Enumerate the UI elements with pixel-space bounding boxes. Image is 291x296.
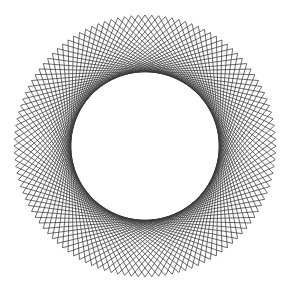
string-art-svg xyxy=(0,0,291,296)
string-art-figure xyxy=(0,0,291,296)
chord-line xyxy=(105,139,276,270)
chord-group xyxy=(14,15,276,277)
